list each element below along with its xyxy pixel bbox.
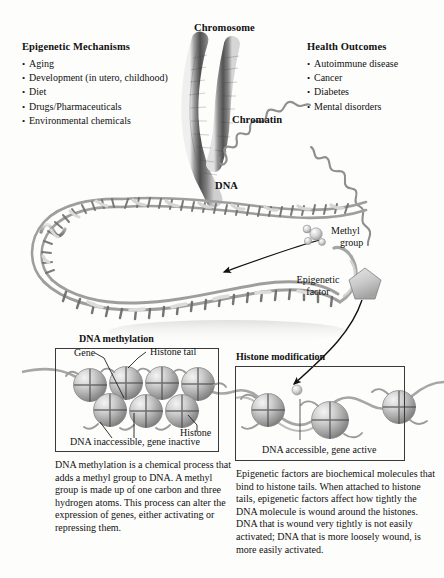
histone-tail-label: Histone tail <box>150 346 196 358</box>
epigenetic-mechanisms-list: Aging Development (in utero, childhood) … <box>22 57 168 128</box>
list-item: Development (in utero, childhood) <box>22 71 168 85</box>
histone-modification-description: Epigenetic factors are biochemical molec… <box>236 468 438 556</box>
dna-label: DNA <box>215 180 238 191</box>
figure-canvas: Epigenetic Mechanisms Aging Development … <box>0 0 444 578</box>
list-item: Aging <box>22 57 168 71</box>
health-outcomes-list: Autoimmune disease Cancer Diabetes Menta… <box>307 57 398 114</box>
list-item: Mental disorders <box>307 100 398 114</box>
histone-modification-panel-title: Histone modification <box>236 351 325 362</box>
methyl-group-label-line2: group <box>331 237 363 249</box>
epigenetic-mechanisms-heading: Epigenetic Mechanisms <box>22 41 130 52</box>
dna-methylation-panel-title: DNA methylation <box>79 333 154 344</box>
dna-inaccessible-caption: DNA inaccessible, gene inactive <box>70 436 200 448</box>
methyl-arrow <box>224 240 320 272</box>
list-item: Environmental chemicals <box>22 114 168 128</box>
list-item: Diet <box>22 85 168 99</box>
epigenetic-factor-label-line1: Epigenetic <box>292 274 344 286</box>
chromatin-label: Chromatin <box>232 114 282 125</box>
epigenetic-factor-shape <box>349 268 381 299</box>
epigenetic-factor-label: Epigenetic factor <box>292 274 344 298</box>
dna-accessible-caption: DNA accessible, gene active <box>262 444 376 456</box>
dna-double-helix <box>32 213 362 315</box>
list-item: Cancer <box>307 71 398 85</box>
epigenetic-factor-label-line2: factor <box>292 286 344 298</box>
list-item: Autoimmune disease <box>307 57 398 71</box>
methyl-group-label-line1: Methyl <box>331 225 363 237</box>
gene-label: Gene <box>74 347 95 359</box>
list-item: Drugs/Pharmaceuticals <box>22 100 168 114</box>
dna-methylation-description: DNA methylation is a chemical process th… <box>55 459 235 535</box>
methyl-group-label: Methyl group <box>331 225 363 249</box>
methyl-group-molecule <box>303 225 325 245</box>
dna-helix-strand <box>32 198 366 319</box>
chromosome-label: Chromosome <box>194 22 255 33</box>
health-outcomes-heading: Health Outcomes <box>307 41 386 52</box>
list-item: Diabetes <box>307 85 398 99</box>
